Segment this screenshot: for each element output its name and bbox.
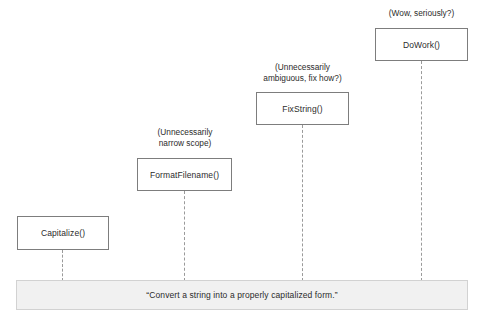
connector-capitalize xyxy=(62,250,63,281)
node-capitalize[interactable]: Capitalize() xyxy=(17,216,109,250)
connector-do-work xyxy=(421,61,422,281)
description-bar: “Convert a string into a properly capita… xyxy=(16,280,468,310)
node-do-work[interactable]: DoWork() xyxy=(375,28,468,61)
node-format-filename[interactable]: FormatFilename() xyxy=(137,158,232,191)
annotation-fix-string: (Unnecessarily ambiguous, fix how?) xyxy=(253,62,352,83)
annotation-do-work: (Wow, seriously?) xyxy=(375,8,468,19)
function-naming-diagram: (Unnecessarily narrow scope) (Unnecessar… xyxy=(0,0,484,324)
node-fix-string[interactable]: FixString() xyxy=(256,92,349,125)
annotation-format-filename: (Unnecessarily narrow scope) xyxy=(139,127,231,148)
connector-fix-string xyxy=(302,125,303,281)
connector-format-filename xyxy=(184,191,185,281)
